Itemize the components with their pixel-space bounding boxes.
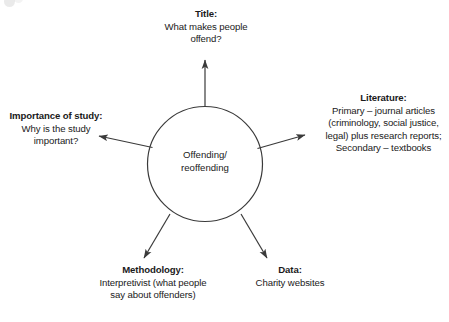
- node-data-body: Charity websites: [232, 277, 348, 290]
- node-importance-heading: Importance of study:: [2, 110, 110, 123]
- hub-label: Offending/ reoffending: [148, 148, 262, 174]
- node-data-heading: Data:: [232, 264, 348, 277]
- connector-data: [241, 214, 267, 258]
- node-title: Title: What makes people offend?: [148, 8, 264, 46]
- node-methodology-heading: Methodology:: [80, 264, 226, 277]
- node-importance-body: Why is the study important?: [2, 123, 110, 148]
- connector-literature: [258, 135, 306, 149]
- node-importance: Importance of study: Why is the study im…: [2, 110, 110, 148]
- node-title-body: What makes people offend?: [148, 21, 264, 46]
- node-literature: Literature: Primary – journal articles (…: [318, 92, 449, 155]
- diagram-canvas: Offending/ reoffending Title: What makes…: [0, 0, 449, 322]
- node-literature-heading: Literature:: [318, 92, 449, 105]
- node-data: Data: Charity websites: [232, 264, 348, 289]
- node-title-heading: Title:: [148, 8, 264, 21]
- connector-methodology: [144, 214, 170, 258]
- node-methodology: Methodology: Interpretivist (what people…: [80, 264, 226, 302]
- node-methodology-body: Interpretivist (what people say about of…: [80, 277, 226, 302]
- node-literature-body: Primary – journal articles (criminology,…: [318, 105, 449, 155]
